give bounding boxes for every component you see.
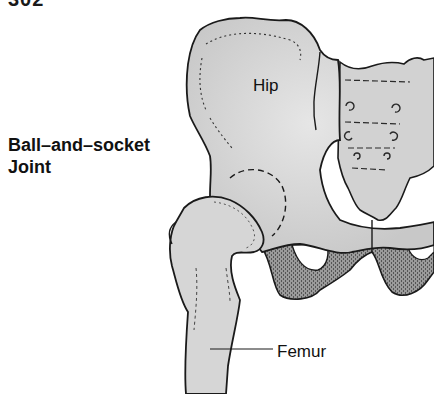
ball-and-socket-joint-label: Ball–and–socket Joint	[8, 134, 150, 178]
sacrum	[338, 58, 434, 220]
hip-joint-illustration	[0, 0, 434, 394]
joint-label-line1: Ball–and–socket	[8, 134, 150, 156]
femur-label: Femur	[277, 342, 326, 362]
femur	[170, 197, 264, 394]
hip-label: Hip	[253, 76, 279, 96]
joint-label-line2: Joint	[8, 156, 150, 178]
